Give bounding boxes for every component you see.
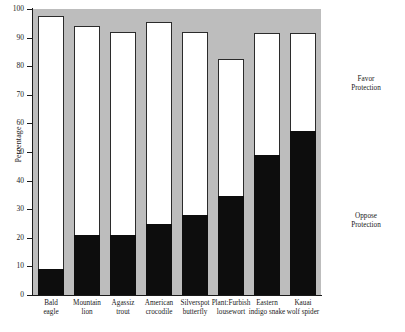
bar-group	[254, 9, 280, 295]
bar-group	[110, 9, 136, 295]
y-axis-tick	[27, 238, 32, 239]
bar-segment-oppose	[254, 155, 280, 295]
y-axis-tick-label: 80	[0, 62, 24, 70]
y-axis-tick	[27, 9, 32, 10]
y-axis-tick	[27, 266, 32, 267]
annotation-oppose-line1: Oppose	[330, 212, 402, 221]
bar-segment-oppose	[218, 196, 244, 295]
bar-segment-oppose	[146, 224, 172, 296]
bar-segment-oppose	[290, 131, 316, 295]
bar-segment-oppose	[74, 235, 100, 295]
y-axis-tick-label: 20	[0, 234, 24, 242]
y-axis-tick-label: 90	[0, 34, 24, 42]
y-axis-tick-label: 0	[0, 291, 24, 299]
annotation-favor-line2: Protection	[330, 84, 402, 93]
annotation-favor-protection: Favor Protection	[330, 75, 402, 93]
annotation-favor-line1: Favor	[330, 75, 402, 84]
y-axis-line	[32, 8, 33, 296]
bar-group	[218, 9, 244, 295]
bar-segment-oppose	[110, 235, 136, 295]
y-axis-tick-label: 30	[0, 205, 24, 213]
y-axis-tick-label: 50	[0, 148, 24, 156]
y-axis-title: Percentage	[14, 105, 23, 185]
x-axis-tick-label-line: Kauai	[281, 299, 325, 308]
annotation-oppose-line2: Protection	[330, 221, 402, 230]
y-axis-tick-label: 60	[0, 119, 24, 127]
y-axis-tick-label: 70	[0, 91, 24, 99]
bar-group	[290, 9, 316, 295]
bar-chart: Percentage 0102030405060708090100Baldeag…	[0, 0, 405, 332]
annotation-oppose-protection: Oppose Protection	[330, 212, 402, 230]
bar-segment-oppose	[38, 269, 64, 295]
bar-segment-favor	[38, 16, 64, 295]
y-axis-tick-label: 100	[0, 5, 24, 13]
x-axis-tick-label-line: wolf spider	[281, 308, 325, 317]
y-axis-tick	[27, 66, 32, 67]
y-axis-tick	[27, 95, 32, 96]
y-axis-tick	[27, 295, 32, 296]
bar-group	[146, 9, 172, 295]
bar-group	[182, 9, 208, 295]
y-axis-tick	[27, 152, 32, 153]
bar-group	[38, 9, 64, 295]
x-axis-tick-label: Kauaiwolf spider	[281, 299, 325, 317]
y-axis-tick	[27, 123, 32, 124]
x-axis-line	[32, 295, 322, 296]
bar-segment-oppose	[182, 215, 208, 295]
y-axis-tick	[27, 181, 32, 182]
y-axis-tick-label: 40	[0, 177, 24, 185]
bar-group	[74, 9, 100, 295]
y-axis-tick-label: 10	[0, 262, 24, 270]
y-axis-tick	[27, 209, 32, 210]
y-axis-tick	[27, 38, 32, 39]
